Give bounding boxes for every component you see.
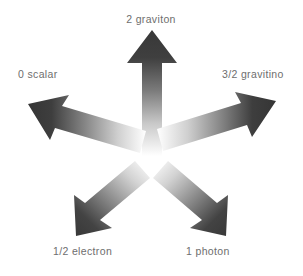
label-scalar: 0 scalar (18, 69, 58, 80)
arrow-group (0, 0, 303, 276)
label-photon: 1 photon (186, 246, 230, 257)
spin-multiplet-diagram: 2 graviton 0 scalar 3/2 gravitino 1/2 el… (0, 0, 303, 276)
arrow-scalar-icon (28, 95, 146, 153)
label-electron: 1/2 electron (53, 246, 112, 257)
arrow-photon-icon (153, 161, 228, 236)
arrow-electron-icon (74, 161, 150, 236)
arrow-gravitino-icon (157, 92, 276, 151)
label-graviton: 2 graviton (126, 14, 176, 25)
label-gravitino: 3/2 gravitino (222, 69, 284, 80)
